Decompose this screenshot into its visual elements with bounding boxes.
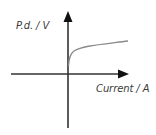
data-curve (69, 41, 129, 66)
chart-area: P.d. / V Current / A (0, 0, 156, 135)
y-axis-label: P.d. / V (16, 20, 49, 31)
x-axis-arrow-icon (118, 70, 129, 79)
y-axis-arrow-icon (64, 11, 73, 22)
x-axis-label: Current / A (96, 83, 149, 94)
